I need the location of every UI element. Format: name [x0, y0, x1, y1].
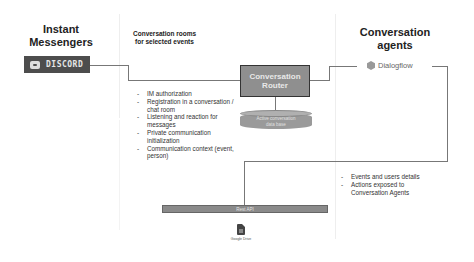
connector-rest-v	[244, 161, 245, 205]
column-title-instant-messengers: Instant Messengers	[22, 23, 100, 49]
rest-api-bar: Rest API	[162, 205, 328, 213]
discord-label: DISCORD	[46, 60, 83, 69]
discord-logo-icon	[30, 61, 40, 69]
router-features-list: IM authorization Registration in a conve…	[137, 90, 237, 160]
list-item: Events and users details	[341, 173, 431, 181]
list-item: Private communication initialization	[137, 129, 237, 145]
agent-features-list: Events and users details Actions exposed…	[341, 173, 431, 196]
title-line: Instant	[22, 23, 100, 36]
subtitle-line: Conversation rooms	[133, 30, 233, 38]
connector-discord-v	[128, 65, 129, 80]
column-separator-right	[335, 14, 336, 239]
dialogflow-label: Dialogflow	[378, 61, 413, 70]
database-label-line: data base	[240, 122, 312, 128]
connector-router-right-h2	[329, 66, 357, 67]
list-item: Actions exposed to Conversation Agents	[341, 181, 431, 197]
discord-node: DISCORD	[24, 56, 90, 73]
list-item: IM authorization	[137, 90, 237, 98]
dialogflow-logo-icon	[367, 61, 375, 70]
active-conversation-database: Active conversation data base	[240, 110, 312, 132]
connector-discord-h2	[128, 80, 240, 81]
list-item: Registration in a conversation / chat ro…	[137, 98, 237, 114]
router-label-line1: Conversation	[241, 72, 309, 82]
connector-router-right-v	[329, 66, 330, 81]
title-line: agents	[355, 39, 435, 52]
google-drive-label: Google Drive	[224, 237, 258, 241]
column-subtitle-conversation-rooms: Conversation rooms for selected events	[133, 30, 233, 46]
connector-bottom-h	[244, 161, 448, 162]
column-separator-left	[119, 14, 120, 118]
column-separator-left	[119, 120, 120, 230]
subtitle-line: for selected events	[133, 38, 233, 46]
list-item: Listening and reaction for messages	[137, 113, 237, 129]
column-title-conversation-agents: Conversation agents	[355, 26, 435, 52]
title-line: Messengers	[22, 36, 100, 49]
google-sheets-icon	[237, 224, 245, 235]
title-line: Conversation	[355, 26, 435, 39]
router-label-line2: Router	[241, 81, 309, 91]
connector-dialogflow-v	[447, 66, 448, 161]
connector-router-db	[275, 97, 276, 110]
connector-dialogflow-h	[432, 66, 448, 67]
database-label: Active conversation data base	[240, 116, 312, 127]
connector-router-right-h	[310, 80, 329, 81]
conversation-router-node: Conversation Router	[240, 65, 310, 97]
connector-discord-h1	[90, 65, 128, 66]
list-item: Communication context (event, person)	[137, 145, 237, 161]
